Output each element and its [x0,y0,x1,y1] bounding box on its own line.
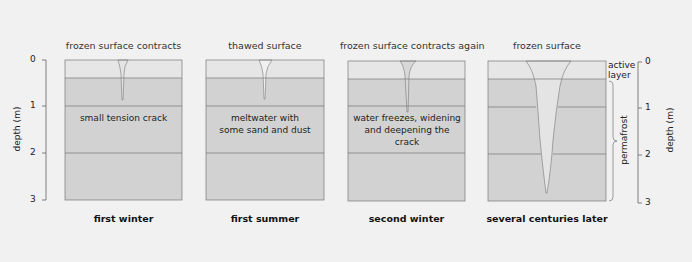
panel-1-caption: first winter [65,213,182,224]
panel-4-caption: several centuries later [478,213,616,224]
panel-2-label: meltwater with some sand and dust [218,112,312,136]
right-tick-0: 0 [645,56,651,66]
panel-3-title: frozen surface contracts again [340,40,473,51]
active-layer-label: active layer [608,60,635,80]
active-layer-line1: active [608,60,635,70]
panel-2-caption: first summer [206,213,324,224]
panel-4-title: frozen surface [488,40,606,51]
panel-first-winter [65,60,182,200]
left-tick-1: 1 [30,100,36,110]
panel-3-label: water freezes, widening and deepening th… [352,112,462,148]
right-axis-label: depth (m) [665,105,675,155]
panel-1-label: small tension crack [65,112,182,124]
left-tick-0: 0 [30,54,36,64]
left-depth-axis [42,60,46,200]
right-tick-3: 3 [645,197,651,207]
left-axis-label: depth (m) [12,104,22,154]
right-tick-1: 1 [645,102,651,112]
right-tick-2: 2 [645,149,651,159]
panel-2-title: thawed surface [206,40,324,51]
left-tick-2: 2 [30,147,36,157]
left-tick-3: 3 [30,194,36,204]
permafrost-label: permafrost [619,110,629,170]
active-layer-line2: layer [608,70,635,80]
panel-3-caption: second winter [348,213,465,224]
panel-1-title: frozen surface contracts [65,40,182,51]
panel-several-centuries-later [488,61,617,201]
right-depth-axis [638,62,642,203]
